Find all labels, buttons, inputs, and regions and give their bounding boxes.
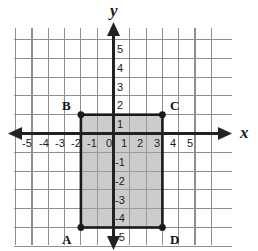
x-axis-right-arrow bbox=[218, 127, 232, 140]
x-axis-left-arrow bbox=[8, 127, 22, 140]
y-tick-label-5: 5 bbox=[117, 44, 123, 55]
y-tick-label-4: 4 bbox=[117, 63, 123, 74]
vertex-dot-b bbox=[78, 111, 85, 118]
vertex-label-c: C bbox=[170, 99, 179, 112]
y-axis-up-arrow bbox=[107, 22, 120, 36]
x-tick-label--4: -4 bbox=[39, 138, 49, 149]
x-tick-label-0: 0 bbox=[106, 138, 112, 149]
x-tick-label-5: 5 bbox=[187, 138, 193, 149]
vertex-dot-d bbox=[159, 224, 166, 231]
y-axis-label: y bbox=[110, 2, 118, 19]
vertex-label-a: A bbox=[62, 233, 71, 246]
y-tick-label--4: -4 bbox=[115, 213, 125, 224]
x-tick-label-1: 1 bbox=[121, 138, 127, 149]
vertex-label-d: D bbox=[170, 233, 179, 246]
y-tick-label--3: -3 bbox=[115, 195, 125, 206]
x-axis-label: x bbox=[240, 124, 249, 141]
y-tick-label-3: 3 bbox=[117, 82, 123, 93]
y-tick-label--2: -2 bbox=[115, 176, 125, 187]
x-tick-label--1: -1 bbox=[87, 138, 97, 149]
x-tick-label--5: -5 bbox=[22, 138, 32, 149]
y-tick-label--5: -5 bbox=[115, 232, 125, 243]
vertex-dot-c bbox=[159, 111, 166, 118]
coordinate-plane-graph: y x B C A D -5 -4 -3 -2 -1 0 1 2 3 4 5 5… bbox=[0, 0, 258, 251]
y-tick-label--1: -1 bbox=[115, 157, 125, 168]
plot-area bbox=[0, 0, 258, 251]
x-tick-label-2: 2 bbox=[137, 138, 143, 149]
vertex-dot-a bbox=[78, 224, 85, 231]
x-tick-label-3: 3 bbox=[154, 138, 160, 149]
vertex-label-b: B bbox=[62, 99, 71, 112]
x-tick-label--2: -2 bbox=[71, 138, 81, 149]
y-tick-label-2: 2 bbox=[117, 100, 123, 111]
x-tick-label--3: -3 bbox=[55, 138, 65, 149]
x-tick-label-4: 4 bbox=[170, 138, 176, 149]
y-tick-label-1: 1 bbox=[117, 119, 123, 130]
